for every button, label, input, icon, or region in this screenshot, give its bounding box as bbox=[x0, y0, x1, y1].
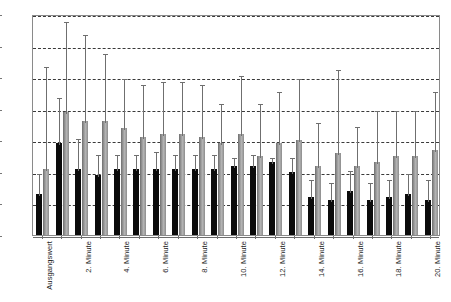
error-bar-grey bbox=[415, 111, 416, 158]
error-bar-black bbox=[408, 174, 409, 196]
error-bar-cap-black bbox=[57, 98, 62, 99]
x-tick-label: 12. Minute bbox=[278, 241, 287, 277]
y-tick-mark-40 bbox=[0, 110, 2, 111]
x-tick-mark bbox=[61, 236, 62, 239]
error-bar-black bbox=[156, 152, 157, 171]
y-tick-mark-20 bbox=[0, 173, 2, 174]
x-tick-mark bbox=[294, 236, 295, 239]
error-bar-grey bbox=[279, 92, 280, 146]
bar-black bbox=[386, 197, 392, 235]
error-bar-cap-black bbox=[76, 139, 81, 140]
x-tick-mark bbox=[178, 236, 179, 239]
error-bar-grey bbox=[299, 79, 300, 142]
error-bar-cap-grey bbox=[375, 111, 380, 112]
error-bar-black bbox=[39, 174, 40, 196]
error-bar-cap-grey bbox=[258, 104, 263, 105]
x-axis: Ausgangswert2. Minute4. Minute6. Minute8… bbox=[32, 236, 440, 302]
error-bar-black bbox=[234, 158, 235, 167]
error-bar-grey bbox=[182, 82, 183, 136]
bar-grey bbox=[140, 137, 146, 235]
error-bar-grey bbox=[163, 82, 164, 136]
bar-group bbox=[36, 16, 49, 235]
error-bar-grey bbox=[221, 104, 222, 145]
error-bar-grey bbox=[241, 76, 242, 136]
error-bar-cap-black bbox=[232, 158, 237, 159]
error-bar-cap-grey bbox=[200, 85, 205, 86]
error-bar-cap-grey bbox=[44, 67, 49, 68]
bar-black bbox=[269, 162, 275, 235]
bar-group bbox=[269, 16, 282, 235]
error-bar-black bbox=[331, 183, 332, 202]
x-tick-mark bbox=[411, 236, 412, 239]
error-bar-grey bbox=[66, 22, 67, 114]
x-tick-label: 6. Minute bbox=[161, 241, 170, 273]
error-bar-cap-black bbox=[193, 155, 198, 156]
error-bar-grey bbox=[143, 85, 144, 139]
x-tick-mark bbox=[81, 236, 82, 239]
bar-group bbox=[95, 16, 108, 235]
error-bar-cap-grey bbox=[122, 79, 127, 80]
error-bar-black bbox=[311, 180, 312, 199]
bar-grey bbox=[354, 166, 360, 235]
error-bar-cap-grey bbox=[277, 92, 282, 93]
bar-black bbox=[328, 200, 334, 235]
bar-black bbox=[289, 172, 295, 235]
x-tick-mark bbox=[42, 236, 43, 239]
x-tick-label: 2. Minute bbox=[84, 241, 93, 273]
bar-grey bbox=[82, 121, 88, 235]
x-tick-mark bbox=[197, 236, 198, 239]
error-bar-grey bbox=[338, 70, 339, 155]
bar-black bbox=[308, 197, 314, 235]
bar-grey bbox=[102, 121, 108, 235]
bar-group bbox=[347, 16, 360, 235]
x-tick-mark bbox=[255, 236, 256, 239]
x-tick-mark bbox=[353, 236, 354, 239]
bar-group bbox=[386, 16, 399, 235]
bar-grey bbox=[238, 134, 244, 235]
bar-group bbox=[231, 16, 244, 235]
bar-group bbox=[367, 16, 380, 235]
bar-group bbox=[405, 16, 418, 235]
error-bar-cap-grey bbox=[355, 127, 360, 128]
bar-grey bbox=[432, 150, 438, 235]
bars-layer bbox=[33, 16, 439, 235]
bar-group bbox=[153, 16, 166, 235]
error-bar-black bbox=[195, 155, 196, 171]
bar-black bbox=[231, 166, 237, 235]
error-bar-black bbox=[175, 155, 176, 171]
y-tick-mark-0 bbox=[0, 236, 2, 237]
bar-grey bbox=[276, 143, 282, 235]
y-tick-mark-70 bbox=[0, 15, 2, 16]
error-bar-cap-grey bbox=[219, 104, 224, 105]
y-tick-mark-60 bbox=[0, 47, 2, 48]
error-bar-black bbox=[350, 171, 351, 193]
chart-container: 010203040506070 Ausgangswert2. Minute4. … bbox=[0, 0, 451, 302]
x-tick-mark bbox=[217, 236, 218, 239]
x-tick-label: 4. Minute bbox=[122, 241, 131, 273]
bar-grey bbox=[335, 153, 341, 235]
bar-grey bbox=[63, 112, 69, 235]
error-bar-cap-black bbox=[115, 155, 120, 156]
error-bar-black bbox=[292, 158, 293, 174]
x-tick-mark bbox=[100, 236, 101, 239]
error-bar-cap-grey bbox=[161, 82, 166, 83]
error-bar-cap-grey bbox=[83, 35, 88, 36]
error-bar-grey bbox=[435, 92, 436, 152]
bar-black bbox=[95, 175, 101, 235]
x-tick-mark bbox=[430, 236, 431, 239]
bar-group bbox=[250, 16, 263, 235]
bar-grey bbox=[160, 134, 166, 235]
bar-group bbox=[56, 16, 69, 235]
x-tick-mark bbox=[139, 236, 140, 239]
x-tick-mark bbox=[391, 236, 392, 239]
error-bar-cap-grey bbox=[336, 70, 341, 71]
plot-area bbox=[32, 15, 440, 236]
error-bar-black bbox=[59, 98, 60, 145]
bar-black bbox=[250, 166, 256, 235]
bar-black bbox=[347, 191, 353, 235]
error-bar-cap-grey bbox=[180, 82, 185, 83]
y-tick-mark-30 bbox=[0, 141, 2, 142]
bar-group bbox=[75, 16, 88, 235]
error-bar-cap-black bbox=[173, 155, 178, 156]
error-bar-black bbox=[214, 155, 215, 171]
